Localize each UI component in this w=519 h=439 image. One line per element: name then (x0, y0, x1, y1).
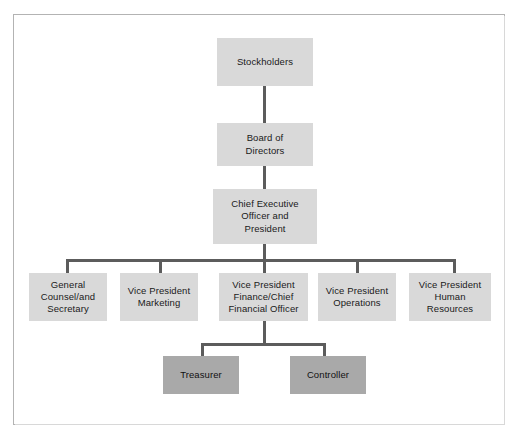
connector-bus-to-vp-finance (263, 259, 266, 273)
node-chief-executive-officer[interactable]: Chief Executive Officer and President (213, 189, 317, 244)
node-vp-human-resources-label: Vice President Human Resources (411, 279, 489, 316)
node-vp-human-resources[interactable]: Vice President Human Resources (409, 273, 491, 321)
connector-bus-to-general-counsel (66, 259, 69, 273)
node-board-of-directors-label: Board of Directors (219, 132, 311, 156)
node-vp-marketing-label: Vice President Marketing (122, 285, 196, 309)
org-chart-page: Stockholders Board of Directors Chief Ex… (0, 0, 519, 439)
connector-vp-finance-to-bus (263, 321, 266, 345)
node-controller-label: Controller (292, 369, 364, 381)
node-stockholders-label: Stockholders (219, 56, 311, 68)
connector-bus-level5 (201, 343, 326, 346)
node-board-of-directors[interactable]: Board of Directors (217, 123, 313, 166)
connector-bus-to-vp-operations (356, 259, 359, 273)
node-vp-finance[interactable]: Vice President Finance/Chief Financial O… (219, 273, 308, 321)
connector-stockholders-to-board (263, 86, 266, 123)
chart-frame-border: Stockholders Board of Directors Chief Ex… (13, 14, 505, 425)
connector-bus-to-controller (323, 343, 326, 357)
node-vp-operations[interactable]: Vice President Operations (318, 273, 396, 321)
connector-bus-to-vp-marketing (159, 259, 162, 273)
node-vp-marketing[interactable]: Vice President Marketing (120, 273, 198, 321)
node-vp-finance-label: Vice President Finance/Chief Financial O… (221, 279, 306, 316)
node-general-counsel[interactable]: General Counsel/and Secretary (29, 273, 107, 321)
node-controller[interactable]: Controller (290, 356, 366, 394)
node-chief-executive-officer-label: Chief Executive Officer and President (215, 198, 315, 235)
connector-bus-to-treasurer (201, 343, 204, 357)
node-treasurer-label: Treasurer (165, 369, 237, 381)
connector-bus-level4 (66, 259, 456, 262)
node-stockholders[interactable]: Stockholders (217, 38, 313, 86)
node-vp-operations-label: Vice President Operations (320, 285, 394, 309)
node-general-counsel-label: General Counsel/and Secretary (31, 279, 105, 316)
connector-bus-to-vp-hr (453, 259, 456, 273)
node-treasurer[interactable]: Treasurer (163, 356, 239, 394)
